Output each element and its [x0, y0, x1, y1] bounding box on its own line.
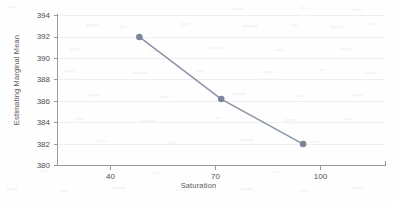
x-axis-title: Saturation [0, 181, 397, 190]
x-tick-marks [111, 166, 321, 170]
y-axis-title: Estimating Marginal Mean [12, 10, 21, 150]
data-point [300, 141, 307, 148]
data-point [218, 96, 225, 103]
data-line [139, 37, 303, 144]
y-tick-label-386: 386 [24, 97, 50, 106]
y-tick-label-390: 390 [24, 54, 50, 63]
x-tick-label-100: 100 [301, 172, 341, 181]
y-tick-label-392: 392 [24, 32, 50, 41]
data-point [136, 34, 143, 41]
data-point-markers [136, 34, 306, 148]
chart-container: 394 392 390 388 386 384 382 380 40 70 10… [0, 0, 397, 204]
y-tick-label-384: 384 [24, 118, 50, 127]
x-tick-label-70: 70 [196, 172, 236, 181]
y-tick-marks [54, 16, 58, 166]
x-tick-label-40: 40 [91, 172, 131, 181]
y-tick-label-394: 394 [24, 11, 50, 20]
gridlines [58, 16, 386, 145]
y-tick-label-382: 382 [24, 140, 50, 149]
y-tick-label-380: 380 [24, 161, 50, 170]
y-tick-label-388: 388 [24, 75, 50, 84]
